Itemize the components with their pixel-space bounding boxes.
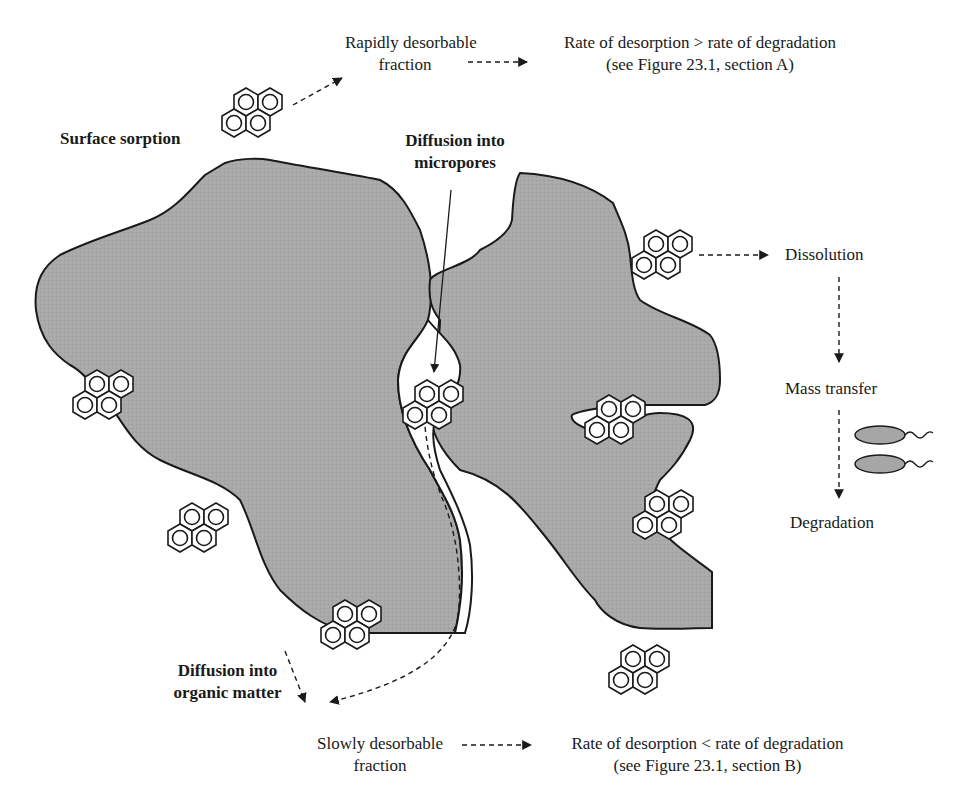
mass-transfer-label: Mass transfer (785, 378, 877, 400)
bacterium-icon (855, 455, 933, 473)
diffusion-organic-line2: organic matter (170, 682, 285, 704)
sorption-diagram: Rapidly desorbable fraction Rate of deso… (0, 0, 961, 794)
rate-greater-line2: (see Figure 23.1, section A) (535, 54, 865, 76)
diffusion-micropores-line2: micropores (390, 152, 520, 174)
slow-fraction-line2: fraction (300, 755, 460, 777)
degradation-label: Degradation (790, 512, 874, 534)
rapid-fraction-line1: Rapidly desorbable (345, 32, 465, 54)
rate-less-line1: Rate of desorption < rate of degradation (545, 733, 870, 755)
diffusion-micropores-line1: Diffusion into (390, 130, 520, 152)
molecule-surface (222, 88, 282, 137)
surface-sorption-label: Surface sorption (60, 128, 180, 150)
rapid-fraction-line2: fraction (345, 54, 465, 76)
arrow-to-rapid-fraction (293, 78, 342, 105)
rate-less-label: Rate of desorption < rate of degradation… (545, 733, 870, 777)
diffusion-organic-line1: Diffusion into (170, 660, 285, 682)
rate-greater-line1: Rate of desorption > rate of degradation (535, 32, 865, 54)
molecule-dissolution (632, 230, 692, 279)
rapid-fraction-label: Rapidly desorbable fraction (345, 32, 465, 76)
diffusion-micropores-label: Diffusion into micropores (390, 130, 520, 174)
dissolution-label: Dissolution (785, 244, 863, 266)
molecule-bottom (609, 645, 669, 694)
rate-greater-label: Rate of desorption > rate of degradation… (535, 32, 865, 76)
diffusion-organic-label: Diffusion into organic matter (170, 660, 285, 704)
rate-less-line2: (see Figure 23.1, section B) (545, 755, 870, 777)
arrow-organic-to-slow (285, 651, 305, 702)
molecule-left-lower (168, 503, 228, 552)
bacterium-icon (855, 426, 933, 444)
slow-fraction-label: Slowly desorbable fraction (300, 733, 460, 777)
slow-fraction-line1: Slowly desorbable (300, 733, 460, 755)
